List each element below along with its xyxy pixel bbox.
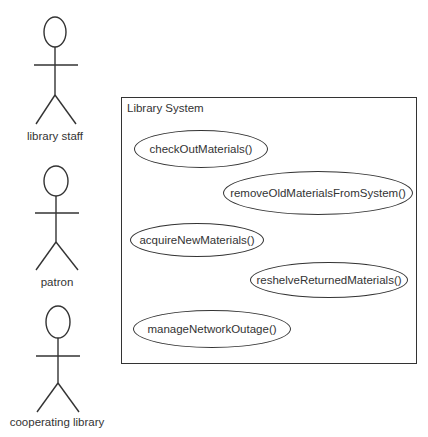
stick-figure-icon bbox=[32, 302, 82, 414]
actor-label-patron: patron bbox=[41, 276, 74, 288]
actor-library-staff bbox=[28, 14, 78, 126]
stick-figure-icon bbox=[28, 14, 78, 126]
use-case-manage-network-outage: manageNetworkOutage() bbox=[133, 310, 291, 348]
use-case-acquire-new-materials: acquireNewMaterials() bbox=[130, 223, 264, 257]
actor-patron bbox=[29, 164, 79, 274]
use-case-label: reshelveReturnedMaterials() bbox=[256, 274, 401, 286]
use-case-remove-old-materials: removeOldMaterialsFromSystem() bbox=[223, 171, 413, 215]
system-title: Library System bbox=[127, 102, 204, 114]
use-case-check-out-materials: checkOutMaterials() bbox=[134, 130, 268, 168]
actor-label-cooperating-library: cooperating library bbox=[10, 416, 105, 428]
stick-figure-icon bbox=[29, 164, 79, 274]
actor-label-library-staff: library staff bbox=[27, 130, 83, 142]
use-case-label: acquireNewMaterials() bbox=[139, 234, 254, 246]
use-case-label: removeOldMaterialsFromSystem() bbox=[230, 187, 406, 199]
use-case-label: checkOutMaterials() bbox=[150, 143, 253, 155]
use-case-label: manageNetworkOutage() bbox=[147, 323, 276, 335]
actor-cooperating-library bbox=[32, 302, 82, 414]
use-case-reshelve-returned-materials: reshelveReturnedMaterials() bbox=[250, 262, 408, 298]
